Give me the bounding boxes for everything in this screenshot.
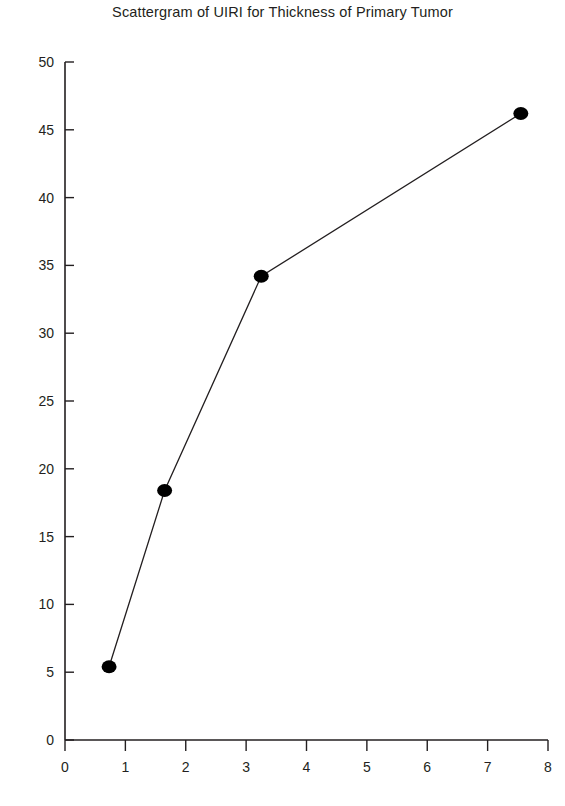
data-point-marker bbox=[254, 270, 269, 283]
x-axis-tick-label: 1 bbox=[121, 759, 129, 775]
x-axis-tick-label: 6 bbox=[423, 759, 431, 775]
x-axis-tick-label: 4 bbox=[303, 759, 311, 775]
y-axis-tick-label: 45 bbox=[38, 122, 54, 138]
y-axis-tick-label: 40 bbox=[38, 190, 54, 206]
scatter-line-plot: 05101520253035404550 012345678 bbox=[0, 0, 565, 806]
y-axis-tick-label: 15 bbox=[38, 529, 54, 545]
y-axis-tick-label: 50 bbox=[38, 54, 54, 70]
y-axis-tick-label: 25 bbox=[38, 393, 54, 409]
data-point-marker bbox=[157, 484, 172, 497]
y-axis-tick-label: 10 bbox=[38, 596, 54, 612]
x-axis: 012345678 bbox=[61, 740, 552, 775]
y-axis: 05101520253035404550 bbox=[38, 54, 74, 748]
y-axis-tick-label: 20 bbox=[38, 461, 54, 477]
y-axis-tick-label: 0 bbox=[46, 732, 54, 748]
x-axis-tick-label: 3 bbox=[242, 759, 250, 775]
x-axis-tick-label: 8 bbox=[544, 759, 552, 775]
chart-figure: Scattergram of UIRI for Thickness of Pri… bbox=[0, 0, 565, 806]
x-axis-tick-label: 5 bbox=[363, 759, 371, 775]
y-axis-tick-label: 35 bbox=[38, 257, 54, 273]
data-point-marker bbox=[102, 660, 117, 673]
plot-area: 05101520253035404550 012345678 bbox=[0, 0, 565, 806]
x-axis-tick-label: 7 bbox=[484, 759, 492, 775]
x-axis-tick-label: 2 bbox=[182, 759, 190, 775]
y-axis-tick-label: 30 bbox=[38, 325, 54, 341]
data-series bbox=[102, 107, 529, 673]
y-axis-tick-label: 5 bbox=[46, 664, 54, 680]
series-line bbox=[109, 114, 521, 667]
x-axis-tick-label: 0 bbox=[61, 759, 69, 775]
data-point-marker bbox=[513, 107, 528, 120]
